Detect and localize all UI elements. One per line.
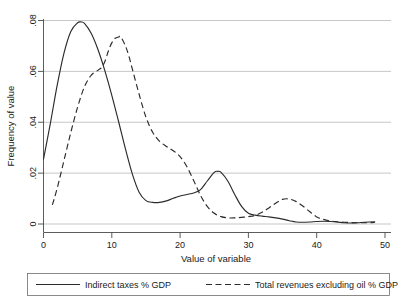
y-tick-label-3: .06 xyxy=(28,65,38,78)
y-tick-labels: 0.02.04.06.08 xyxy=(28,14,38,226)
y-tick-label-4: .08 xyxy=(28,14,38,27)
x-tick-labels: 01020304050 xyxy=(41,240,390,250)
gridlines xyxy=(44,21,392,225)
legend: Indirect taxes % GDP Total revenues excl… xyxy=(28,274,399,296)
y-axis xyxy=(38,19,44,232)
x-tick-label-1: 10 xyxy=(107,240,117,250)
y-tick-label-2: .04 xyxy=(28,116,38,129)
x-tick-label-5: 50 xyxy=(380,240,390,250)
kernel-density-chart: 0.02.04.06.08 01020304050 Value of varia… xyxy=(0,0,401,301)
x-axis-title: Value of variable xyxy=(181,253,251,264)
legend-label-total-revenues: Total revenues excluding oil % GDP xyxy=(255,280,398,290)
x-axis xyxy=(44,233,392,239)
y-axis-title: Frequency of value xyxy=(5,86,16,167)
chart-figure: 0.02.04.06.08 01020304050 Value of varia… xyxy=(0,0,401,301)
x-tick-label-0: 0 xyxy=(41,240,46,250)
x-tick-label-3: 30 xyxy=(243,240,253,250)
series-line-total-revenues xyxy=(52,36,374,223)
y-tickmarks xyxy=(38,21,44,225)
x-tick-label-4: 40 xyxy=(312,240,322,250)
y-tick-label-1: .02 xyxy=(28,167,38,180)
x-tickmarks xyxy=(44,233,386,239)
legend-label-indirect-taxes: Indirect taxes % GDP xyxy=(85,280,171,290)
x-tick-label-2: 20 xyxy=(175,240,185,250)
y-tick-label-0: 0 xyxy=(28,221,38,226)
